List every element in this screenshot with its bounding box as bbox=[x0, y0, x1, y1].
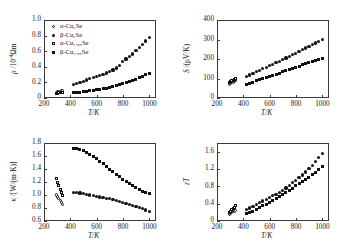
seebeck-xtick-label: 800 bbox=[282, 100, 310, 108]
data-point bbox=[314, 171, 317, 174]
thermal-conductivity-ytick-label: 1.6 bbox=[18, 151, 41, 159]
panel-seebeck: 01002003004002004006008001000T/KS /(μV/K… bbox=[173, 0, 345, 123]
thermal-conductivity-ytick bbox=[44, 143, 47, 144]
figure-of-merit-xtick-label: 200 bbox=[203, 223, 231, 231]
resistivity-ytick bbox=[44, 20, 47, 21]
seebeck-ytick bbox=[217, 59, 220, 60]
data-point bbox=[304, 170, 307, 173]
seebeck-ytick bbox=[217, 40, 220, 41]
seebeck-xtick bbox=[243, 95, 244, 98]
data-point bbox=[321, 57, 324, 60]
thermal-conductivity-xtick-label: 200 bbox=[30, 223, 58, 231]
seebeck-xtick bbox=[322, 95, 323, 98]
seebeck-ytick-label: 100 bbox=[191, 74, 214, 82]
figure-of-merit-xtick bbox=[322, 218, 323, 221]
figure-of-merit-ytick bbox=[217, 169, 220, 170]
legend-label: α-Cu₁.₉₈Se bbox=[60, 39, 88, 48]
seebeck-xtick-label: 200 bbox=[203, 100, 231, 108]
data-point bbox=[234, 77, 237, 80]
seebeck-xaxis-label: T/K bbox=[261, 108, 272, 117]
data-point bbox=[138, 46, 141, 49]
data-point bbox=[251, 72, 254, 75]
figure-of-merit-yaxis-label: zT bbox=[182, 142, 191, 222]
data-point bbox=[148, 210, 151, 213]
legend-marker-alpha-Cu1.98Se bbox=[52, 42, 55, 45]
resistivity-xtick-label: 400 bbox=[56, 100, 84, 108]
seebeck-xtick-label: 1000 bbox=[308, 100, 336, 108]
thermal-conductivity-xtick bbox=[44, 218, 45, 221]
figure-of-merit-ytick-label: 0.4 bbox=[191, 199, 214, 207]
seebeck-ytick-label: 400 bbox=[191, 15, 214, 23]
seebeck-ytick bbox=[217, 20, 220, 21]
resistivity-xtick bbox=[97, 95, 98, 98]
data-point bbox=[284, 56, 287, 59]
data-point bbox=[301, 173, 304, 176]
data-point bbox=[311, 164, 314, 167]
data-point bbox=[307, 176, 310, 179]
figure-of-merit-xtick bbox=[296, 218, 297, 221]
figure-of-merit-xtick-label: 800 bbox=[282, 223, 310, 231]
thermal-conductivity-xtick bbox=[70, 218, 71, 221]
thermal-conductivity-ytick-label: 0.8 bbox=[18, 203, 41, 211]
data-point bbox=[314, 160, 317, 163]
figure-of-merit-xtick bbox=[270, 218, 271, 221]
figure-of-merit-ytick-label: 0.8 bbox=[191, 182, 214, 190]
data-point bbox=[307, 45, 310, 48]
data-point bbox=[321, 165, 324, 168]
resistivity-xtick bbox=[149, 95, 150, 98]
thermal-conductivity-xtick bbox=[123, 218, 124, 221]
thermal-conductivity-ytick-label: 1.8 bbox=[18, 138, 41, 146]
seebeck-xtick bbox=[270, 95, 271, 98]
thermal-conductivity-xtick-label: 600 bbox=[83, 223, 111, 231]
thermal-conductivity-xaxis-label: T/K bbox=[88, 231, 99, 240]
panel-zt: 00.40.81.21.62004006008001000T/KzT bbox=[173, 123, 345, 246]
resistivity-xtick-label: 600 bbox=[83, 100, 111, 108]
data-point bbox=[141, 43, 144, 46]
data-point bbox=[131, 52, 134, 55]
resistivity-xtick-label: 200 bbox=[30, 100, 58, 108]
seebeck-ytick bbox=[217, 79, 220, 80]
data-point bbox=[148, 36, 151, 39]
thermal-conductivity-ytick-label: 1.2 bbox=[18, 177, 41, 185]
seebeck-ytick-label: 300 bbox=[191, 35, 214, 43]
thermal-conductivity-ytick bbox=[44, 182, 47, 183]
data-point bbox=[148, 72, 151, 75]
figure-of-merit-ytick-label: 1.6 bbox=[191, 147, 214, 155]
seebeck-xtick-label: 600 bbox=[256, 100, 284, 108]
thermal-conductivity-xtick-label: 400 bbox=[56, 223, 84, 231]
thermal-conductivity-ytick bbox=[44, 208, 47, 209]
resistivity-xtick-label: 800 bbox=[109, 100, 137, 108]
data-point bbox=[297, 176, 300, 179]
seebeck-yaxis-label: S /(μV/K) bbox=[182, 19, 191, 99]
resistivity-ytick bbox=[44, 51, 47, 52]
resistivity-ytick-label: 0.6 bbox=[18, 47, 41, 55]
data-point bbox=[134, 49, 137, 52]
data-point bbox=[148, 192, 151, 195]
thermal-conductivity-xtick-label: 800 bbox=[109, 223, 137, 231]
data-point bbox=[115, 66, 118, 69]
resistivity-xtick bbox=[123, 95, 124, 98]
seebeck-xtick bbox=[296, 95, 297, 98]
thermal-conductivity-ytick-label: 1.0 bbox=[18, 190, 41, 198]
legend-marker-beta-Cu2Se bbox=[52, 34, 55, 37]
resistivity-xtick bbox=[44, 95, 45, 98]
data-point bbox=[317, 168, 320, 171]
legend-label: β-Cu₂Se bbox=[60, 31, 82, 40]
resistivity-xtick bbox=[70, 95, 71, 98]
figure-of-merit-xtick-label: 600 bbox=[256, 223, 284, 231]
figure-of-merit-ytick bbox=[217, 204, 220, 205]
resistivity-xtick-label: 1000 bbox=[135, 100, 163, 108]
panel-rho: 00.20.40.60.81.02004006008001000T/Kρ /10… bbox=[0, 0, 172, 123]
data-point bbox=[61, 91, 64, 94]
figure-of-merit-xtick-label: 1000 bbox=[308, 223, 336, 231]
thermal-conductivity-ytick bbox=[44, 169, 47, 170]
figure-of-merit-xaxis-label: T/K bbox=[261, 231, 272, 240]
data-point bbox=[234, 204, 237, 207]
thermal-conductivity-xtick bbox=[149, 218, 150, 221]
legend-marker-beta-Cu1.98Se bbox=[52, 51, 55, 54]
data-point bbox=[111, 68, 114, 71]
seebeck-xtick-label: 400 bbox=[229, 100, 257, 108]
resistivity-ytick bbox=[44, 36, 47, 37]
thermoelectric-properties-figure: 00.20.40.60.81.02004006008001000T/Kρ /10… bbox=[0, 0, 345, 247]
figure-of-merit-ytick bbox=[217, 186, 220, 187]
